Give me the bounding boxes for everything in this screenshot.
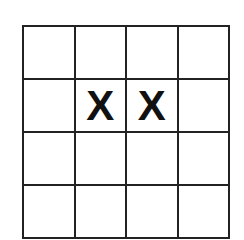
cell-r2-c2[interactable]: X — [76, 80, 126, 131]
cell-r3-c2[interactable] — [76, 133, 126, 184]
cell-r3-c1[interactable] — [24, 133, 74, 184]
cell-r2-c4[interactable] — [179, 80, 229, 131]
cell-r2-c1[interactable] — [24, 80, 74, 131]
grid-4x4: X X — [22, 25, 230, 239]
cell-r3-c3[interactable] — [127, 133, 177, 184]
cell-r3-c4[interactable] — [179, 133, 229, 184]
cell-r2-c3[interactable]: X — [127, 80, 177, 131]
cell-r1-c4[interactable] — [179, 27, 229, 78]
cell-r1-c1[interactable] — [24, 27, 74, 78]
cell-r4-c4[interactable] — [179, 186, 229, 237]
cell-r1-c3[interactable] — [127, 27, 177, 78]
cell-r4-c1[interactable] — [24, 186, 74, 237]
cell-r4-c3[interactable] — [127, 186, 177, 237]
cell-r1-c2[interactable] — [76, 27, 126, 78]
cell-r4-c2[interactable] — [76, 186, 126, 237]
